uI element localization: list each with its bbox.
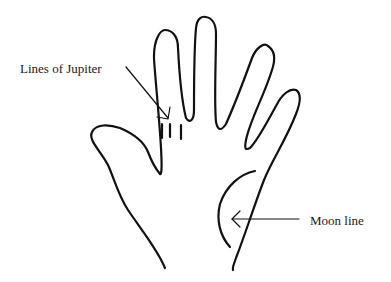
jupiter-arrow-shaft — [126, 67, 168, 118]
moon-line-arc — [218, 171, 255, 247]
palmistry-diagram: Lines of Jupiter Moon line — [0, 0, 391, 282]
lines-of-jupiter-label: Lines of Jupiter — [20, 62, 102, 75]
hand-outline — [91, 17, 300, 270]
moon-line-label: Moon line — [310, 214, 364, 227]
hand-illustration — [0, 0, 391, 282]
